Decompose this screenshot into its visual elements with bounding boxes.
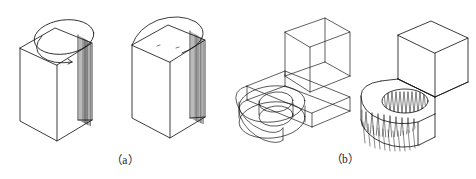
caption-row: （a） （b） <box>0 148 476 179</box>
figure-a-right <box>132 17 205 138</box>
figure-sheet: （a） （b） <box>0 0 476 179</box>
curved-right-face <box>190 31 205 124</box>
top-face-inner-arc <box>37 36 73 64</box>
wireframe-upright-box <box>285 18 350 92</box>
curved-right-face <box>78 35 92 126</box>
figure-a-left <box>20 16 96 141</box>
hole-construction-ellipse-top <box>237 83 306 126</box>
prism-top-face <box>20 28 92 65</box>
solid-base-slab-body <box>361 96 435 147</box>
caption-a: （a） <box>92 153 158 167</box>
solid-upright-block <box>398 21 468 97</box>
prism-body <box>20 43 92 141</box>
top-face-tick-marks <box>157 45 179 48</box>
figure-b-right <box>358 21 468 153</box>
figure-b-left <box>236 18 350 143</box>
caption-b: （b） <box>312 152 378 166</box>
wireframe-base-slab <box>247 71 350 127</box>
through-hole <box>382 89 428 113</box>
hole-construction-ellipse-bottom <box>237 99 306 142</box>
solid-base-slab-top <box>361 79 468 124</box>
